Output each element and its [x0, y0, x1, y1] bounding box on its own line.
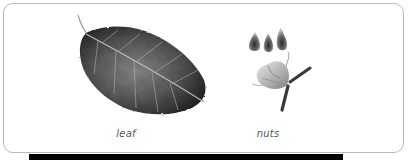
nut-seeds: [249, 29, 287, 52]
nuts-icon: [240, 26, 320, 118]
bottom-black-bar: [29, 154, 343, 160]
caption-leaf: leaf: [96, 128, 156, 139]
leaf-icon: [70, 12, 210, 122]
nut-husk: [252, 52, 310, 110]
nuts-illustration: [240, 26, 320, 118]
figure-canvas: leaf nuts: [0, 0, 409, 160]
caption-nuts: nuts: [238, 128, 298, 139]
leaf-illustration: [70, 12, 210, 122]
